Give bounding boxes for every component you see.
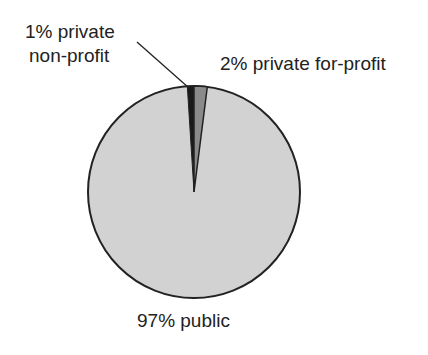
label-public: 97% public <box>137 310 230 332</box>
label-forprofit: 2% private for-profit <box>220 53 386 75</box>
leader-line <box>137 42 189 88</box>
label-nonprofit-line1: 1% private <box>25 21 115 43</box>
label-nonprofit-line2: non-profit <box>29 45 109 67</box>
